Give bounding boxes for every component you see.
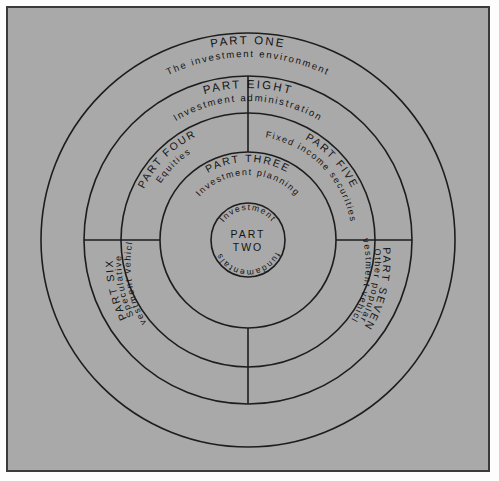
part-one-heading: PART ONE <box>209 34 286 49</box>
part-two-arc-top: Investment <box>217 202 278 224</box>
part-four-heading: PART FOUR <box>135 127 198 190</box>
part-two-heading-line2: TWO <box>233 241 264 253</box>
part-one-subtitle: The investment environment <box>164 48 332 77</box>
ring-circle-two <box>160 152 336 328</box>
part-two-arc-bottom: fundamentals <box>213 251 282 278</box>
concentric-ring-diagram: PART ONE The investment environment PART… <box>0 0 499 481</box>
figure-root: PART ONE The investment environment PART… <box>0 0 499 481</box>
part-two-heading-line1: PART <box>230 228 265 240</box>
